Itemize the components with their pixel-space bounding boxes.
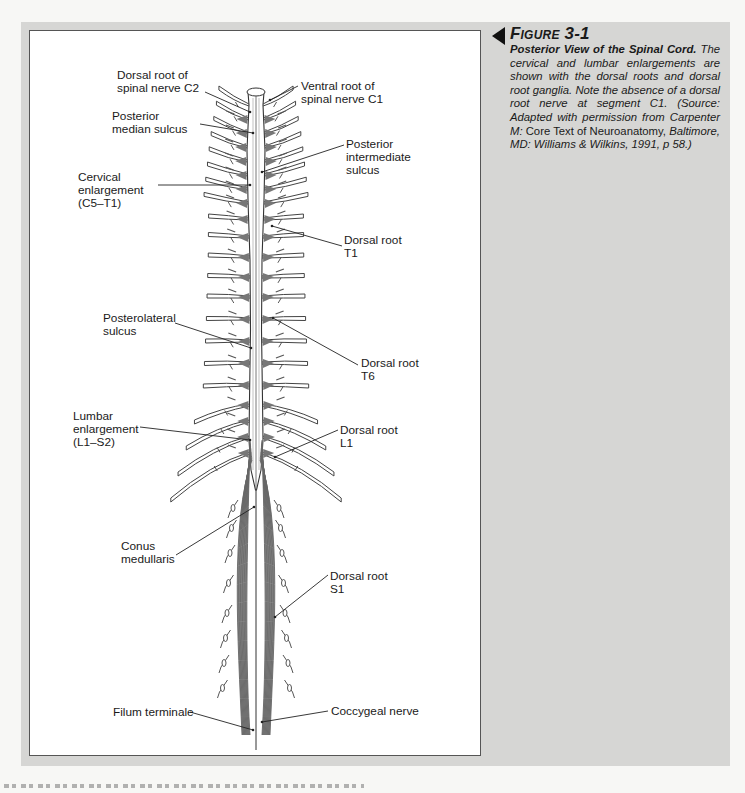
left-triangle-icon [492, 27, 505, 45]
figure-number: Figure 3-1 [510, 24, 590, 44]
caption-body: Posterior View of the Spinal Cord. The c… [510, 43, 720, 152]
label-dorsal-root-c2: Dorsal root of spinal nerve C2 [117, 69, 199, 95]
label-filum-terminale: Filum terminale [113, 706, 194, 719]
caption-book-title: Core Text of Neuroanatomy, [526, 125, 666, 137]
label-posterior-median-sulcus: Posterior median sulcus [112, 110, 187, 136]
label-dorsal-root-l1: Dorsal root L1 [340, 424, 398, 450]
label-cervical-enlargement: Cervical enlargement (C5–T1) [78, 171, 144, 210]
label-conus-medullaris: Conus medullaris [121, 540, 175, 566]
label-posterolateral-sulcus: Posterolateral sulcus [103, 312, 176, 338]
label-lumbar-enlargement: Lumbar enlargement (L1–S2) [73, 410, 139, 449]
caption-title: Posterior View of the Spinal Cord. [510, 43, 696, 55]
label-dorsal-root-t1: Dorsal root T1 [344, 234, 402, 260]
cut-off-body-text [0, 784, 745, 793]
label-ventral-root-c1: Ventral root of spinal nerve C1 [301, 80, 383, 106]
label-dorsal-root-t6: Dorsal root T6 [361, 357, 419, 383]
caption-text: The cervical and lumbar enlargements are… [510, 43, 720, 137]
label-dorsal-root-s1: Dorsal root S1 [330, 570, 388, 596]
label-coccygeal-nerve: Coccygeal nerve [331, 705, 419, 718]
spinal-cord-diagram [29, 30, 481, 756]
label-posterior-intermediate-sulcus: Posterior intermediate sulcus [346, 138, 411, 177]
